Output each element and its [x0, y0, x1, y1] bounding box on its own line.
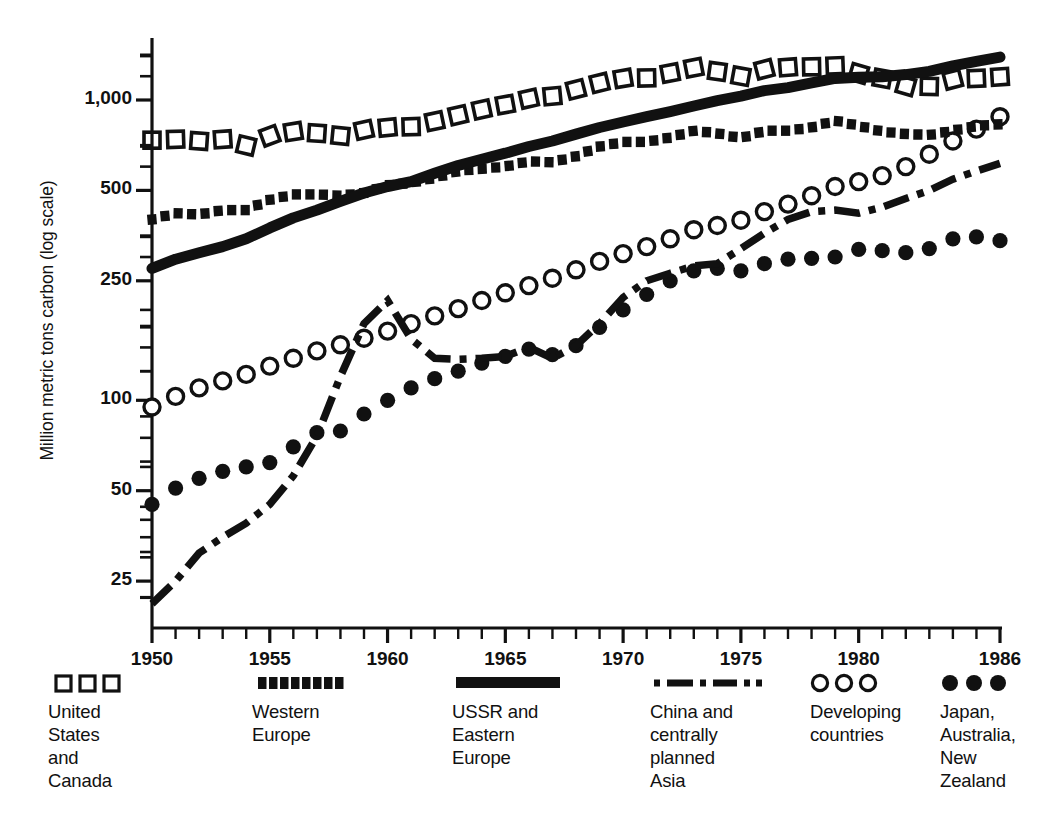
legend-label: Western Europe [252, 700, 422, 746]
x-tick-label: 1955 [220, 648, 320, 670]
x-tick-label: 1980 [809, 648, 909, 670]
legend-item[interactable]: Japan, Australia, New Zealand [940, 672, 1050, 792]
y-tick-label: 250 [100, 268, 132, 290]
legend-item[interactable]: China and centrally planned Asia [650, 672, 820, 792]
x-tick-label: 1965 [455, 648, 555, 670]
x-tick-label: 1986 [950, 648, 1050, 670]
legend-symbol-icon [252, 672, 402, 694]
legend-item[interactable]: Western Europe [252, 672, 422, 746]
y-tick-label: 100 [100, 387, 132, 409]
plot-area: Million metric tons carbon (log scale) 1… [0, 0, 1050, 670]
legend-symbol-icon [48, 672, 198, 694]
y-axis-title: Million metric tons carbon (log scale) [37, 86, 58, 556]
y-tick-label: 25 [111, 568, 132, 590]
legend-symbol-icon [650, 672, 800, 694]
legend-item[interactable]: USSR and Eastern Europe [452, 672, 622, 769]
legend-swatch-dash-dot-row [650, 672, 800, 694]
chart-figure: Million metric tons carbon (log scale) 1… [0, 0, 1050, 837]
legend-symbol-icon [940, 672, 1050, 694]
x-tick-label: 1950 [102, 648, 202, 670]
chart-legend: United States and CanadaWestern EuropeUS… [0, 672, 1050, 837]
legend-label: China and centrally planned Asia [650, 700, 820, 792]
legend-label: USSR and Eastern Europe [452, 700, 622, 769]
legend-swatch-open-square-row [48, 672, 198, 694]
y-tick-label: 1,000 [84, 87, 132, 109]
y-tick-label: 50 [111, 478, 132, 500]
chart-svg [0, 0, 1050, 670]
legend-swatch-open-circle-row [810, 672, 960, 694]
x-tick-label: 1970 [573, 648, 673, 670]
legend-symbol-icon [452, 672, 602, 694]
legend-swatch-filled-square-dotted-row [252, 672, 402, 694]
legend-item[interactable]: United States and Canada [48, 672, 218, 792]
x-tick-label: 1975 [691, 648, 791, 670]
legend-label: Japan, Australia, New Zealand [940, 700, 1050, 792]
legend-swatch-filled-circle-row [940, 672, 1050, 694]
legend-label: United States and Canada [48, 700, 218, 792]
legend-swatch-solid-bar [452, 672, 602, 694]
legend-symbol-icon [810, 672, 960, 694]
x-tick-label: 1960 [338, 648, 438, 670]
series-2 [152, 57, 1000, 268]
y-tick-label: 500 [100, 177, 132, 199]
